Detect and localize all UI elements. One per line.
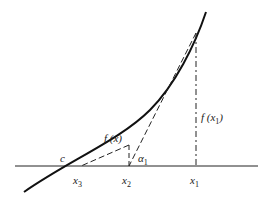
function-curve	[24, 12, 206, 192]
x1-label: x1	[189, 174, 199, 189]
x3-label: x3	[72, 174, 82, 189]
secant-line-2	[81, 145, 129, 166]
x2-label: x2	[121, 174, 131, 189]
secant-method-diagram: c x3 x2 x1 f (x) f (x1) α1	[0, 0, 271, 200]
fx-label: f (x)	[104, 132, 122, 145]
root-label-c: c	[60, 152, 65, 164]
secant-line-1	[129, 33, 196, 166]
alpha-label: α1	[138, 152, 148, 167]
fx1-label: f (x1)	[201, 111, 223, 126]
